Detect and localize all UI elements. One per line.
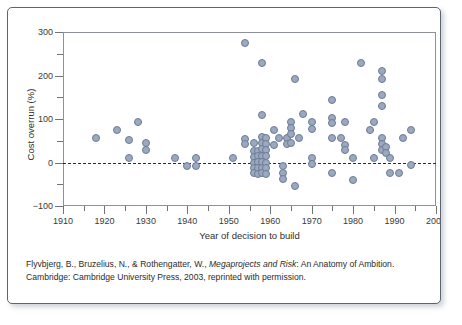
x-tick-minor [125, 206, 126, 211]
data-point [92, 134, 100, 142]
x-tick-label: 1910 [43, 216, 83, 226]
x-tick-label: 1970 [292, 216, 332, 226]
y-axis-title: Cost overrun (%) [25, 55, 36, 195]
y-tick [55, 32, 63, 33]
data-point [229, 154, 237, 162]
data-point [192, 162, 200, 170]
data-point [192, 154, 200, 162]
y-tick-minor [57, 141, 63, 142]
x-tick-minor [208, 206, 209, 211]
x-tick [229, 206, 230, 214]
figure-card: −1000100200300 1910192019301940195019601… [7, 7, 441, 304]
x-tick [353, 206, 354, 214]
figure-caption: Flyvbjerg, B., Bruzelius, N., & Rothenga… [8, 252, 441, 304]
y-tick-minor [57, 97, 63, 98]
data-point [295, 134, 303, 142]
x-tick-label: 1930 [126, 216, 166, 226]
x-tick-label: 1920 [84, 216, 124, 226]
caption-part-1: Flyvbjerg, B., Bruzelius, N., & Rothenga… [26, 259, 209, 269]
data-point [378, 75, 386, 83]
x-tick [63, 206, 64, 214]
y-tick [55, 163, 63, 164]
x-tick-label: 1960 [250, 216, 290, 226]
caption-italic-title: Megaprojects and Risk [209, 259, 296, 269]
x-tick [187, 206, 188, 214]
data-point [275, 134, 283, 142]
y-tick [55, 206, 63, 207]
x-axis-title: Year of decision to build [63, 230, 436, 241]
y-tick [55, 76, 63, 77]
x-tick-label: 1990 [375, 216, 415, 226]
x-tick-label: 2000 [416, 216, 441, 226]
x-tick-minor [374, 206, 375, 211]
x-tick-label: 1940 [167, 216, 207, 226]
x-tick [104, 206, 105, 214]
x-tick-label: 1950 [209, 216, 249, 226]
data-point [399, 134, 407, 142]
y-tick [55, 119, 63, 120]
scatter-chart: −1000100200300 1910192019301940195019601… [8, 8, 441, 252]
x-tick [436, 206, 437, 214]
x-tick [312, 206, 313, 214]
data-point [262, 170, 270, 178]
x-tick-minor [291, 206, 292, 211]
x-tick-minor [84, 206, 85, 211]
x-tick-minor [415, 206, 416, 211]
data-point [171, 154, 179, 162]
x-tick [270, 206, 271, 214]
data-point [258, 59, 266, 67]
data-point [328, 169, 336, 177]
data-point [378, 91, 386, 99]
data-point [366, 126, 374, 134]
data-point [258, 111, 266, 119]
x-tick-label: 1980 [333, 216, 373, 226]
x-tick [146, 206, 147, 214]
data-point [308, 160, 316, 168]
x-tick [395, 206, 396, 214]
data-point [279, 175, 287, 183]
plot-frame [63, 32, 436, 206]
y-tick-label: −100 [13, 201, 53, 211]
y-tick-minor [57, 54, 63, 55]
x-tick-minor [332, 206, 333, 211]
x-tick-minor [167, 206, 168, 211]
x-tick-minor [250, 206, 251, 211]
data-point [378, 102, 386, 110]
data-point [370, 154, 378, 162]
y-tick-minor [57, 184, 63, 185]
y-tick-label: 300 [13, 27, 53, 37]
